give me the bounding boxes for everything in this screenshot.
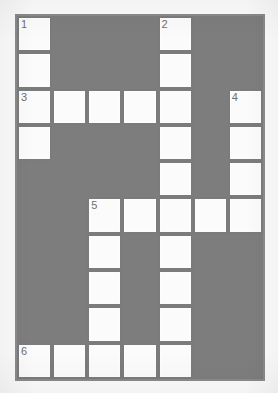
cell-clue-number: 2 [162, 19, 168, 30]
crossword-cell-block [122, 161, 157, 197]
crossword-cell-block [17, 306, 52, 342]
crossword-cell-block [122, 270, 157, 306]
crossword-cell-open[interactable] [158, 161, 193, 197]
crossword-cell-block [17, 270, 52, 306]
crossword-cell-open[interactable]: 1 [17, 16, 52, 52]
cell-clue-number: 4 [232, 92, 238, 103]
crossword-cell-block [228, 306, 263, 342]
cell-clue-number: 1 [21, 19, 27, 30]
crossword-cell-block [122, 125, 157, 161]
crossword-cell-block [52, 161, 87, 197]
crossword-cell-block [87, 16, 122, 52]
crossword-cell-open[interactable] [122, 343, 157, 379]
crossword-cell-open[interactable] [228, 197, 263, 233]
cell-clue-number: 6 [21, 346, 27, 357]
crossword-cell-block [228, 270, 263, 306]
crossword-cell-block [193, 234, 228, 270]
crossword-cell-open[interactable] [87, 343, 122, 379]
crossword-cell-block [52, 16, 87, 52]
crossword-cell-block [52, 306, 87, 342]
crossword-cell-open[interactable] [87, 89, 122, 125]
crossword-cell-block [52, 125, 87, 161]
crossword-cell-block [228, 52, 263, 88]
crossword-cell-open[interactable]: 3 [17, 89, 52, 125]
crossword-cell-block [17, 161, 52, 197]
crossword-cell-block [193, 306, 228, 342]
crossword-cell-block [17, 234, 52, 270]
crossword-cell-block [228, 343, 263, 379]
crossword-cell-open[interactable] [158, 234, 193, 270]
crossword-cell-block [193, 125, 228, 161]
crossword-cell-open[interactable]: 2 [158, 16, 193, 52]
crossword-cell-block [52, 270, 87, 306]
crossword-cell-open[interactable]: 5 [87, 197, 122, 233]
crossword-cell-open[interactable] [158, 343, 193, 379]
crossword-cell-open[interactable] [228, 161, 263, 197]
crossword-cell-open[interactable] [158, 52, 193, 88]
crossword-cell-open[interactable] [158, 306, 193, 342]
crossword-cell-block [87, 52, 122, 88]
crossword-cell-open[interactable] [87, 270, 122, 306]
crossword-cell-block [52, 197, 87, 233]
crossword-cell-block [122, 52, 157, 88]
crossword-cell-open[interactable] [158, 125, 193, 161]
crossword-cell-open[interactable]: 4 [228, 89, 263, 125]
crossword-cell-open[interactable] [228, 125, 263, 161]
crossword-cell-block [193, 52, 228, 88]
crossword-cell-open[interactable] [17, 52, 52, 88]
crossword-cell-block [193, 343, 228, 379]
crossword-cell-open[interactable] [17, 125, 52, 161]
crossword-cell-open[interactable] [158, 197, 193, 233]
crossword-cell-block [87, 125, 122, 161]
cell-clue-number: 5 [91, 200, 97, 211]
crossword-grid[interactable]: 123456 [15, 14, 265, 381]
crossword-cell-block [193, 16, 228, 52]
crossword-cell-block [228, 234, 263, 270]
crossword-cell-open[interactable] [122, 197, 157, 233]
crossword-cell-open[interactable] [52, 343, 87, 379]
crossword-cell-block [122, 234, 157, 270]
crossword-cell-block [228, 16, 263, 52]
crossword-cell-block [122, 16, 157, 52]
crossword-cell-open[interactable] [158, 270, 193, 306]
crossword-cell-open[interactable] [122, 89, 157, 125]
crossword-cell-block [52, 52, 87, 88]
crossword-cell-open[interactable]: 6 [17, 343, 52, 379]
crossword-cell-open[interactable] [87, 306, 122, 342]
crossword-cell-block [193, 89, 228, 125]
cell-clue-number: 3 [21, 92, 27, 103]
crossword-puzzle: 123456 [0, 0, 278, 393]
crossword-cell-open[interactable] [158, 89, 193, 125]
crossword-cell-open[interactable] [87, 234, 122, 270]
crossword-cell-block [87, 161, 122, 197]
crossword-cell-open[interactable] [193, 197, 228, 233]
crossword-cell-block [193, 270, 228, 306]
crossword-cell-open[interactable] [52, 89, 87, 125]
crossword-cell-block [17, 197, 52, 233]
crossword-cell-block [52, 234, 87, 270]
crossword-cell-block [122, 306, 157, 342]
crossword-cell-block [193, 161, 228, 197]
